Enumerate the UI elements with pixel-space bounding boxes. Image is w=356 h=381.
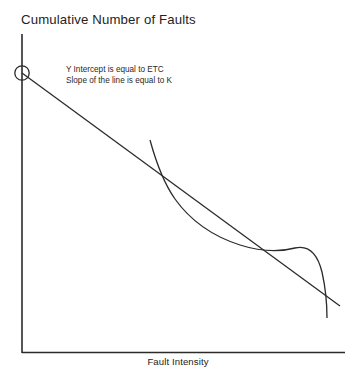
plot-area: [0, 0, 356, 381]
fault-curve: [150, 140, 327, 318]
annotation-y-intercept: Y Intercept is equal to ETC: [66, 65, 172, 76]
annotation-slope: Slope of the line is equal to K: [66, 76, 172, 87]
straight-trend-line: [22, 73, 340, 306]
annotation-block: Y Intercept is equal to ETC Slope of the…: [66, 65, 172, 86]
x-axis-label: Fault Intensity: [0, 356, 356, 367]
figure-root: Cumulative Number of Faults Y Intercept …: [0, 0, 356, 381]
